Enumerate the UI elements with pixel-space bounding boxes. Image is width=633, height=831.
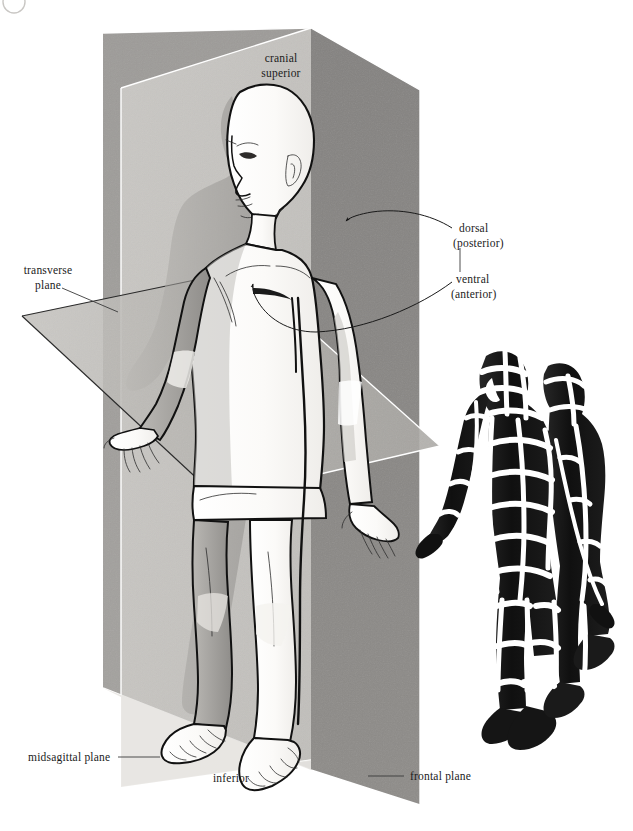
label-frontal-plane: frontal plane bbox=[410, 770, 471, 783]
label-superior: superior bbox=[261, 67, 300, 80]
label-dorsal: dorsal bbox=[459, 222, 488, 234]
label-cranial: cranial bbox=[265, 52, 298, 64]
label-transverse-plane-word: plane bbox=[35, 279, 61, 292]
anatomical-figure-segmented bbox=[415, 351, 614, 750]
sagittal-right-leg bbox=[527, 600, 528, 690]
label-ventral: ventral bbox=[456, 273, 489, 285]
sagittal-back-leg bbox=[554, 602, 556, 682]
segmented-figure-back-right-foot bbox=[573, 634, 614, 670]
anatomical-planes-figure: cranial superior dorsal (posterior) vent… bbox=[0, 0, 633, 831]
label-inferior: inferior bbox=[213, 772, 249, 784]
sagittal-head-front bbox=[505, 352, 507, 414]
corner-circle-mark bbox=[3, 0, 25, 13]
label-midsagittal-plane: midsagittal plane bbox=[28, 751, 110, 764]
figure-pelvis bbox=[193, 486, 327, 520]
label-transverse: transverse bbox=[24, 264, 73, 276]
back-sagittal-leg bbox=[584, 606, 586, 682]
figure-canvas: cranial superior dorsal (posterior) vent… bbox=[0, 0, 633, 831]
label-posterior: (posterior) bbox=[453, 237, 504, 250]
label-anterior: (anterior) bbox=[451, 288, 496, 301]
segmented-figure-back-left-foot bbox=[543, 682, 584, 718]
